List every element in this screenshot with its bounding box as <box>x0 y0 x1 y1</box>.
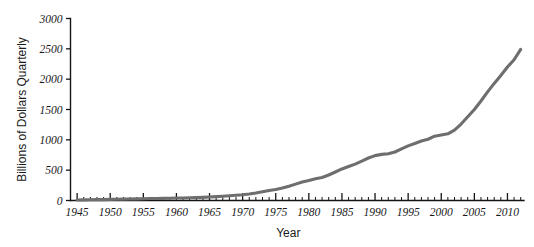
y-axis-tick-label: 1500 <box>40 104 63 116</box>
x-axis-tick-label: 2005 <box>463 206 486 218</box>
x-axis-tick-label: 1990 <box>364 206 387 218</box>
y-axis-tick-label: 2000 <box>40 73 63 85</box>
x-axis-tick-label: 1955 <box>132 206 155 218</box>
x-axis-tick-label: 1980 <box>297 206 320 218</box>
chart-container: 050010001500200025003000 194519501955196… <box>0 0 534 247</box>
series-line <box>77 49 521 200</box>
x-axis: 1945195019551960196519701975198019851990… <box>66 193 524 218</box>
line-chart: 050010001500200025003000 194519501955196… <box>0 0 534 247</box>
y-axis-tick-label: 2500 <box>40 43 63 55</box>
x-axis-tick-label: 1960 <box>165 206 188 218</box>
x-axis-tick-label: 1950 <box>99 206 122 218</box>
x-axis-tick-label: 1945 <box>66 206 89 218</box>
x-axis-title: Year <box>276 226 300 240</box>
x-axis-tick-label: 1995 <box>397 206 420 218</box>
y-axis-tick-label: 500 <box>45 164 63 176</box>
x-axis-tick-label: 1985 <box>330 206 353 218</box>
y-axis-tick-label: 0 <box>57 195 63 207</box>
y-axis-tick-label: 3000 <box>39 13 63 25</box>
x-axis-tick-label: 2000 <box>430 206 453 218</box>
data-series <box>77 49 521 200</box>
y-axis-title: Billions of Dollars Quarterly <box>15 37 29 182</box>
x-axis-tick-label: 1975 <box>264 206 287 218</box>
x-axis-tick-label: 1965 <box>198 206 221 218</box>
x-axis-tick-label: 2010 <box>496 206 519 218</box>
x-axis-tick-label: 1970 <box>231 206 254 218</box>
y-axis: 050010001500200025003000 <box>39 13 71 207</box>
y-axis-tick-label: 1000 <box>40 134 63 146</box>
